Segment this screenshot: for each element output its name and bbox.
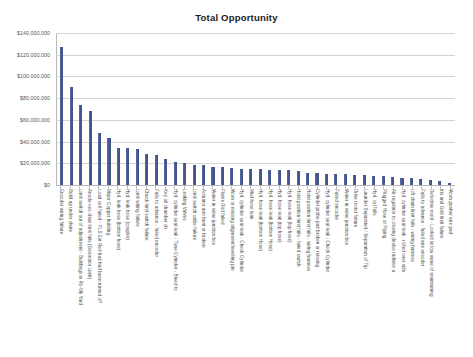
bar[interactable]: [382, 176, 385, 185]
bar[interactable]: [174, 162, 177, 185]
bar[interactable]: [211, 167, 214, 185]
x-axis-tick-label: Anode-ceo chair limit fails (Geomator Li…: [87, 189, 92, 279]
x-label-slot: Defective mold - Looked at low value of …: [427, 189, 437, 349]
x-axis-tick-label: Limit wiring failure: [134, 189, 139, 227]
x-axis-tick-label: Hyd. cyl falls: [372, 189, 377, 215]
bar-slot: [407, 33, 416, 185]
x-label-slot: Hyd. leak hose (coupler): [123, 189, 133, 349]
bar[interactable]: [202, 165, 205, 185]
bar[interactable]: [221, 167, 224, 185]
chart-page: Total Opportunity $0$20,000,000$40,000,0…: [0, 0, 473, 357]
bar[interactable]: [145, 154, 148, 185]
bar[interactable]: [325, 174, 328, 185]
y-axis-tick-label: $100,000,000: [17, 73, 50, 79]
bar[interactable]: [363, 175, 366, 185]
bar[interactable]: [136, 149, 139, 185]
x-axis-tick-label: Iris and Grid limit failure: [438, 189, 443, 239]
x-axis-tick-label: Hyd. hose leak (bottom Hose): [267, 189, 272, 251]
x-axis-tick-label: Hyd. leak hose (bottom hose): [115, 189, 120, 250]
x-label-slot: Hyd. cylinder seal leak - rolled over si…: [398, 189, 408, 349]
x-axis-tick-label: Plugged Hose or Piping: [381, 189, 386, 238]
bar-slot: [237, 33, 246, 185]
x-axis-tick-label: Hyd. cylinder seal leak - Check Cylinder: [324, 189, 329, 272]
x-axis-tick-label: Hyd. cylinder seal leak - rolled over si…: [400, 189, 405, 272]
x-axis-tick-label: Air regulator to closing device radiator…: [391, 189, 396, 272]
bar[interactable]: [60, 47, 63, 185]
x-axis-tick-label: Major Copper building: [106, 189, 111, 235]
bar-slot: [369, 33, 378, 185]
bar-slot: [66, 33, 75, 185]
bar[interactable]: [79, 105, 82, 185]
bar[interactable]: [297, 171, 300, 185]
bar[interactable]: [183, 163, 186, 185]
bar-slot: [256, 33, 265, 185]
bar[interactable]: [126, 148, 129, 185]
x-axis-tick-label: Hyd. hose leak (top hose): [286, 189, 291, 243]
bar[interactable]: [70, 87, 73, 185]
bar[interactable]: [268, 170, 271, 185]
bar[interactable]: [315, 173, 318, 185]
x-label-slot: Water in valve junction box: [341, 189, 351, 349]
bar-slot: [378, 33, 387, 185]
x-label-slot: Limit wiring failure: [132, 189, 142, 349]
bar[interactable]: [400, 178, 403, 185]
x-label-slot: Cylinder probe pad broken or missing: [313, 189, 323, 349]
bar[interactable]: [89, 111, 92, 185]
bar[interactable]: [372, 176, 375, 185]
x-label-slot: Air regulator to closing device radiator…: [389, 189, 399, 349]
bar-slot: [227, 33, 236, 185]
x-label-slot: Lift chain limit fails - wiring harness: [408, 189, 418, 349]
x-axis-tick-label: Flame Rod failed: [220, 189, 225, 225]
bar[interactable]: [353, 175, 356, 185]
x-axis-tick-label: Fails to advance - failed arm encoder: [419, 189, 424, 266]
x-label-slot: Actuator arm bent or broken: [199, 189, 209, 349]
x-label-slot: Hoist position limit fails - wiring harn…: [303, 189, 313, 349]
x-axis-tick-label: Hoist position limit fails - failed swit…: [296, 189, 301, 267]
x-label-slot: Hoist position limit fails - failed swit…: [294, 189, 304, 349]
bar-slot: [303, 33, 312, 185]
bar-slot: [218, 33, 227, 185]
bar[interactable]: [259, 169, 262, 185]
bar[interactable]: [249, 169, 252, 185]
x-label-slot: Leaking Valves: [180, 189, 190, 349]
bar[interactable]: [410, 178, 413, 185]
bar[interactable]: [98, 133, 101, 185]
x-axis-tick-label: Defective mold - Looked at low value of …: [429, 189, 434, 297]
bar-slot: [114, 33, 123, 185]
x-label-slot: Limit switch out of adjustment - Buildin…: [75, 189, 85, 349]
bar[interactable]: [334, 174, 337, 185]
bar[interactable]: [306, 173, 309, 185]
bar[interactable]: [155, 155, 158, 185]
bar[interactable]: [230, 168, 233, 185]
x-axis-tick-label: Fails to advance - failed encoder: [153, 189, 158, 257]
x-label-slot: Hyd. hose leak (bottom Hose): [256, 189, 266, 349]
x-axis-tick-label: Load cell failed - PLS Ext Red had had b…: [96, 189, 101, 303]
bar[interactable]: [107, 138, 110, 185]
x-axis-tick-label: Water in valve junction box: [210, 189, 215, 245]
bar[interactable]: [391, 177, 394, 185]
x-label-slot: Flame Rod failed: [218, 189, 228, 349]
x-axis-tick-label: Chuck limit switch failure: [144, 189, 149, 241]
x-axis-tick-label: Worn or missing alignment/levelling pin: [229, 189, 234, 271]
x-axis-tick-label: Worn pusher arm pad: [448, 189, 453, 234]
x-label-slot: Build up under chute: [66, 189, 76, 349]
bar-slot: [312, 33, 321, 185]
bar[interactable]: [287, 170, 290, 185]
bar[interactable]: [240, 169, 243, 186]
bar-slot: [265, 33, 274, 185]
bar[interactable]: [117, 148, 120, 185]
bar[interactable]: [193, 165, 196, 185]
bar[interactable]: [278, 170, 281, 185]
bar-slot: [435, 33, 444, 185]
x-label-slot: Hyd. cylinder seal leak - Check Cylinder: [237, 189, 247, 349]
x-label-slot: Hyd. leak hose (bottom hose): [113, 189, 123, 349]
x-label-slot: Anode-ceo chair limit fails (Geomator Li…: [85, 189, 95, 349]
bar-slot: [388, 33, 397, 185]
bar-slot: [341, 33, 350, 185]
bar[interactable]: [164, 159, 167, 185]
x-label-slot: Failed encoder: [332, 189, 342, 349]
bar[interactable]: [344, 174, 347, 185]
x-axis-tick-label: Hyd. cylinder seal leak - Check Cylinder: [239, 189, 244, 272]
bar-slot: [246, 33, 255, 185]
bar-slot: [133, 33, 142, 185]
